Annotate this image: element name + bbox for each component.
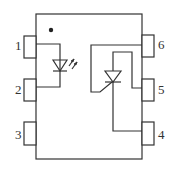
- pin-4: [142, 122, 154, 145]
- led-icon: [36, 44, 77, 87]
- pin-label-3: 3: [15, 127, 22, 142]
- thyristor-icon: [91, 45, 142, 131]
- pin-label-1: 1: [15, 38, 22, 53]
- pin-1: [24, 36, 36, 58]
- pin1-marker-dot: [49, 28, 53, 32]
- pin-label-2: 2: [15, 82, 22, 97]
- optocoupler-diagram: 1 2 3 6 5 4: [0, 0, 181, 170]
- pin-5: [142, 79, 154, 101]
- pin-3: [24, 122, 36, 145]
- pin-2: [24, 79, 36, 101]
- pin-label-5: 5: [158, 82, 165, 97]
- pin-label-4: 4: [158, 127, 165, 142]
- pin-label-6: 6: [158, 37, 165, 52]
- pin-6: [142, 35, 154, 57]
